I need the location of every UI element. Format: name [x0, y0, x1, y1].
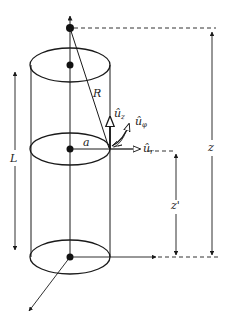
label-a: a	[83, 136, 90, 149]
label-unit-r: ûr	[143, 142, 154, 156]
label-r: R	[92, 87, 101, 100]
label-z: z	[207, 141, 214, 154]
distance-line-r	[70, 28, 109, 148]
label-z-prime: z'	[170, 199, 180, 212]
label-l: L	[9, 152, 17, 165]
label-unit-phi: ûφ	[135, 115, 147, 129]
unit-vector-phi-arrow-inner	[114, 131, 126, 147]
cylinder-diagram: R a L z z' ûz ûφ ûr	[0, 0, 229, 321]
unit-vector-phi-arrow	[112, 124, 129, 146]
top-center-dot	[67, 62, 74, 69]
label-unit-z: ûz	[114, 107, 125, 121]
